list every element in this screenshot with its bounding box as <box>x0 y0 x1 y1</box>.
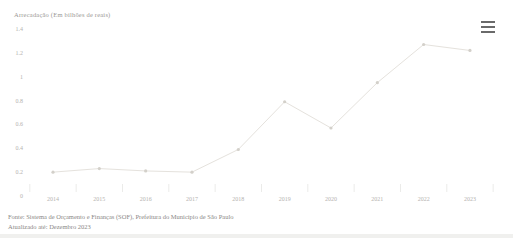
y-axis-label: 1.4 <box>16 26 24 32</box>
x-axis-label: 2020 <box>325 196 337 202</box>
y-axis-label: 1 <box>20 74 23 80</box>
data-point-marker[interactable] <box>237 148 240 151</box>
data-point-marker[interactable] <box>468 49 471 52</box>
series-line <box>53 45 470 173</box>
x-axis-label: 2014 <box>47 196 59 202</box>
x-axis-label: 2018 <box>232 196 244 202</box>
x-axis-label: 2017 <box>186 196 198 202</box>
x-axis-label: 2021 <box>371 196 383 202</box>
line-chart[interactable]: 00.20.40.60.811.21.420142015201620172018… <box>0 0 513 238</box>
x-axis-label: 2022 <box>418 196 430 202</box>
x-axis-label: 2015 <box>93 196 105 202</box>
updated-text: Atualizado até: Dezembro 2023 <box>8 222 233 232</box>
y-axis-label: 0.4 <box>16 145 24 151</box>
y-axis-label: 0.6 <box>16 121 24 127</box>
data-point-marker[interactable] <box>376 81 379 84</box>
data-point-marker[interactable] <box>190 171 193 174</box>
data-point-marker[interactable] <box>329 126 332 129</box>
y-axis-label: 0 <box>20 193 23 199</box>
y-axis-label: 0.8 <box>16 98 24 104</box>
source-text: Fonte: Sistema de Orçamento e Finanças (… <box>8 212 233 222</box>
data-point-marker[interactable] <box>144 169 147 172</box>
data-point-marker[interactable] <box>51 171 54 174</box>
x-axis-label: 2019 <box>279 196 291 202</box>
x-axis-label: 2023 <box>464 196 476 202</box>
y-axis-label: 0.2 <box>16 169 24 175</box>
y-axis-label: 1.2 <box>16 50 24 56</box>
chart-container: Arrecadação (Em bilhões de reais) 00.20.… <box>0 0 513 238</box>
bottom-divider <box>0 234 513 238</box>
chart-footer: Fonte: Sistema de Orçamento e Finanças (… <box>8 212 233 232</box>
x-axis-label: 2016 <box>140 196 152 202</box>
data-point-marker[interactable] <box>283 100 286 103</box>
data-point-marker[interactable] <box>98 167 101 170</box>
data-point-marker[interactable] <box>422 43 425 46</box>
